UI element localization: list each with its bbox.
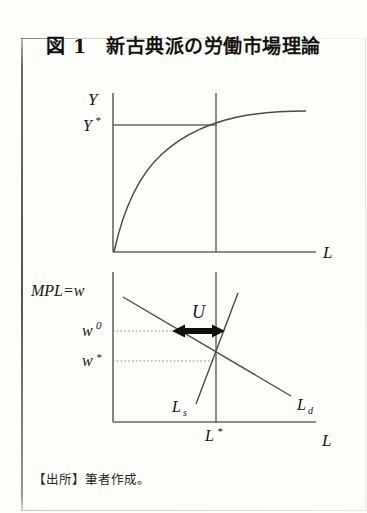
- labor-demand-letter: L: [296, 396, 306, 413]
- w0-label: w 0: [82, 319, 102, 339]
- upper-x-axis-label: L: [322, 243, 332, 262]
- w-star-letter: w: [82, 352, 93, 369]
- labor-supply-subscript: s: [183, 407, 187, 418]
- w-star-asterisk: *: [96, 351, 102, 363]
- lower-panel: U MPL=w w 0 w * L s L d: [30, 272, 331, 450]
- y-star-asterisk: *: [95, 114, 101, 126]
- production-function-curve: [114, 111, 306, 252]
- upper-y-axis-label: Y: [88, 90, 99, 109]
- y-star-letter: Y: [83, 117, 94, 134]
- figure-plot-area: Y Y * L: [0, 0, 367, 513]
- w0-letter: w: [82, 322, 93, 339]
- labor-supply-label: L s: [171, 398, 187, 418]
- upper-panel: Y Y * L: [83, 90, 332, 262]
- gap-arrow-head-right: [212, 325, 225, 338]
- y-star-label: Y *: [83, 114, 101, 134]
- w-star-label: w *: [82, 351, 102, 369]
- labor-demand-subscript: d: [308, 405, 314, 416]
- l-star-letter: L: [204, 427, 214, 444]
- l-star-label: L *: [204, 425, 223, 444]
- w0-superscript: 0: [96, 319, 102, 331]
- l-star-asterisk: *: [217, 425, 223, 437]
- unemployment-gap-arrow: [172, 325, 225, 338]
- lower-x-axis-label: L: [321, 431, 331, 450]
- source-caption: 【出所】筆者作成。: [33, 469, 150, 488]
- wage-axis-label: MPL=w: [30, 282, 85, 299]
- labor-supply-letter: L: [171, 398, 181, 415]
- figure-container: 図 1 新古典派の労働市場理論 Y Y * L: [0, 0, 367, 513]
- labor-demand-curve: [123, 297, 291, 396]
- labor-demand-label: L d: [296, 396, 314, 416]
- unemployment-label: U: [192, 302, 206, 322]
